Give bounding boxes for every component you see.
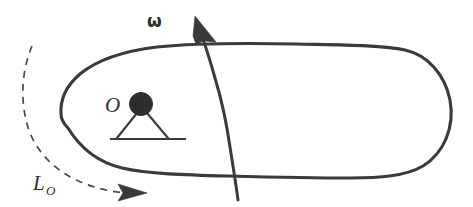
omega-label: ω	[147, 11, 162, 31]
angular-momentum-subscript: O	[46, 183, 56, 198]
rigid-body-rotation-diagram: ω L O O	[0, 0, 473, 207]
pivot-point-marker	[130, 93, 153, 116]
figure-container: ω L O O	[0, 0, 473, 207]
angular-momentum-label: L	[32, 171, 45, 195]
point-o-label: O	[105, 93, 120, 117]
